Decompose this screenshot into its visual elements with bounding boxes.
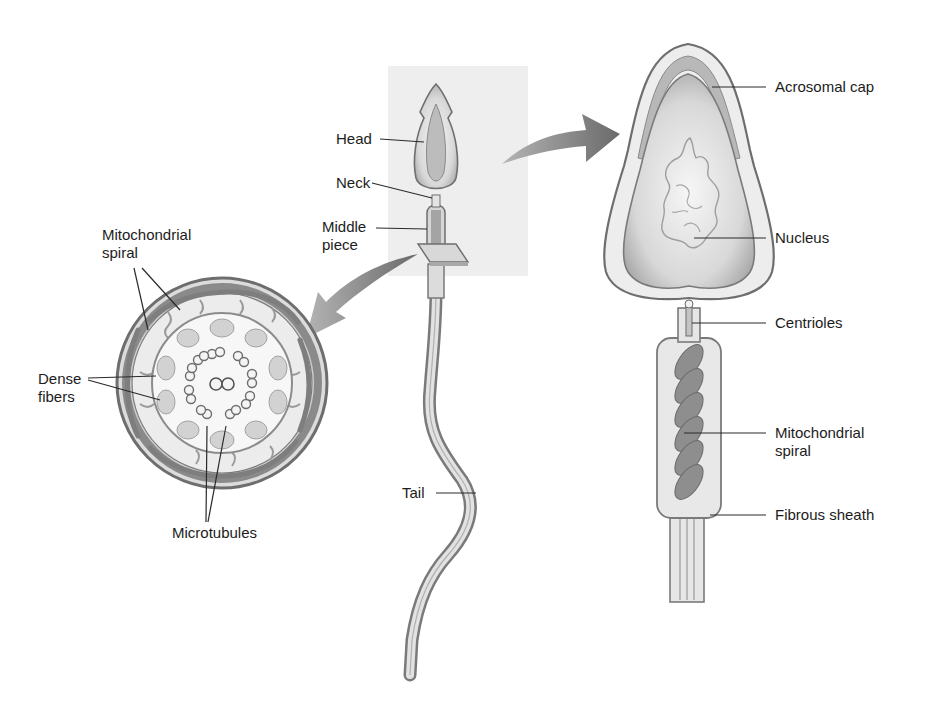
- label-head: Head: [336, 130, 372, 148]
- label-acrosomal-cap: Acrosomal cap: [775, 78, 874, 96]
- centrioles: [686, 306, 692, 336]
- label-head-mitochondrial-spiral: Mitochondrial spiral: [775, 424, 864, 460]
- highlight-box: [388, 66, 528, 276]
- sperm-anatomy-diagram: Head Neck Middle piece Tail Mitochondria…: [0, 0, 944, 706]
- label-microtubules: Microtubules: [172, 524, 257, 542]
- label-cross-mitochondrial-spiral: Mitochondrial spiral: [102, 226, 191, 262]
- label-neck: Neck: [336, 174, 370, 192]
- label-tail: Tail: [402, 484, 425, 502]
- label-fibrous-sheath: Fibrous sheath: [775, 506, 874, 524]
- cross-section: [117, 278, 327, 488]
- label-centrioles: Centrioles: [775, 314, 843, 332]
- label-nucleus: Nucleus: [775, 229, 829, 247]
- label-middle-piece: Middle piece: [322, 218, 366, 254]
- label-dense-fibers: Dense fibers: [38, 370, 81, 406]
- diagram-artwork: [0, 0, 944, 706]
